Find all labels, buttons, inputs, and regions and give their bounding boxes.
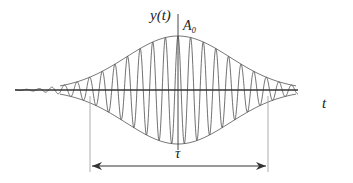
x-axis-label: t — [322, 95, 327, 111]
y-axis-label: y(t) — [148, 7, 171, 24]
duration-label: τ — [175, 145, 181, 161]
amplitude-label: A₀ — [182, 18, 197, 33]
pulse-diagram: y(t) A₀ t τ — [0, 0, 353, 183]
